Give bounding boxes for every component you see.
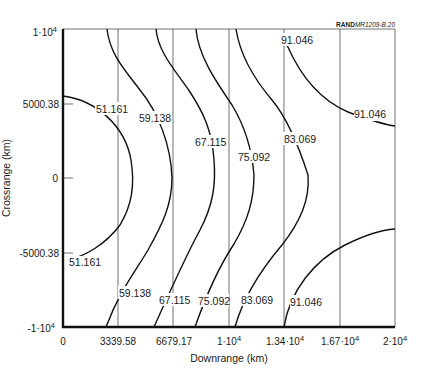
gridlines (118, 29, 340, 327)
contour-51 (63, 96, 133, 260)
y-tick-5000: 5000.38 (23, 99, 60, 110)
contour-label-51-upper: 51.161 (96, 103, 128, 115)
contour-label-51-lower: 51.161 (69, 256, 101, 268)
contour-label-67-upper: 67.115 (195, 136, 226, 148)
x-tick-10000: 1·104 (217, 334, 241, 347)
contour-label-83-lower: 83.069 (241, 294, 273, 306)
contour-label-91-top: 91.046 (281, 34, 313, 46)
x-tick-20000: 2·104 (383, 334, 407, 347)
contour-67 (154, 29, 215, 327)
x-tick-6679: 6679.17 (156, 336, 193, 347)
y-tick-0: 0 (52, 173, 58, 184)
y-axis-title: Crossrange (km) (0, 139, 12, 217)
x-tick-3339: 3339.58 (100, 336, 137, 347)
contour-label-group: 51.161 51.161 59.138 59.138 67.115 67.11… (68, 33, 386, 308)
contour-75 (195, 29, 254, 327)
contour-label-59-lower: 59.138 (119, 287, 151, 299)
y-tick-labels: 1·104 5000.38 0 -5000.38 -1·104 (20, 25, 60, 334)
contour-label-83-upper: 83.069 (284, 133, 316, 145)
contour-91-lower (284, 229, 395, 327)
contour-label-91-lower: 91.046 (290, 296, 322, 308)
x-tick-13400: 1.34·104 (266, 334, 304, 347)
x-tick-labels: 0 3339.58 6679.17 1·104 1.34·104 1.67·10… (60, 334, 407, 347)
x-tick-16700: 1.67·104 (321, 334, 359, 347)
contour-chart: RANDMR1209-B.20 51.161 (0, 0, 425, 379)
chart-credit: RANDMR1209-B.20 (336, 21, 395, 28)
contour-label-91-right: 91.046 (354, 108, 386, 120)
y-ticks (63, 104, 73, 253)
y-tick-neg5000: -5000.38 (20, 248, 60, 259)
contour-label-67-lower: 67.115 (159, 294, 190, 306)
contour-59 (106, 29, 172, 327)
x-tick-0: 0 (60, 336, 66, 347)
x-axis-title: Downrange (km) (190, 352, 268, 364)
y-tick-top: 1·104 (33, 25, 57, 38)
contour-label-59-upper: 59.138 (139, 112, 171, 124)
contour-label-75-lower: 75.092 (198, 295, 230, 307)
contour-83 (235, 29, 308, 327)
y-tick-bottom: -1·104 (27, 321, 55, 334)
contour-label-75-upper: 75.092 (238, 151, 270, 163)
